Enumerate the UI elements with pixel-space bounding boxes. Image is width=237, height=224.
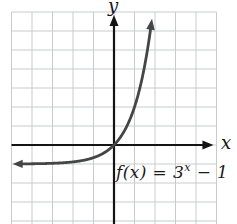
function-equation-label: f(x) = 3x − 1 [116, 162, 228, 182]
graph-figure: y x f(x) = 3x − 1 [0, 0, 237, 224]
equation-suffix: − 1 [191, 162, 228, 182]
equation-exponent: x [184, 161, 191, 174]
equation-prefix: f(x) = 3 [116, 162, 184, 182]
x-axis-label: x [221, 134, 231, 152]
graph-canvas [0, 0, 237, 224]
y-axis-label: y [108, 0, 118, 15]
